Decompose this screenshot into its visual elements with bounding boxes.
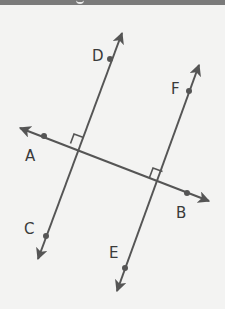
perpendicular-lines-diagram: A B C D E F [0, 0, 225, 309]
line-cd [38, 33, 122, 259]
label-a: A [25, 147, 36, 165]
line-ef [117, 65, 199, 291]
label-d: D [92, 47, 104, 65]
point-e [122, 265, 128, 271]
label-f: F [171, 80, 180, 98]
line-ab [20, 128, 209, 201]
label-e: E [109, 244, 118, 262]
point-a [41, 133, 47, 139]
label-c: C [24, 220, 34, 238]
label-b: B [176, 204, 186, 222]
point-c [43, 233, 49, 239]
point-b [184, 190, 190, 196]
point-f [186, 88, 192, 94]
point-d [107, 56, 113, 62]
